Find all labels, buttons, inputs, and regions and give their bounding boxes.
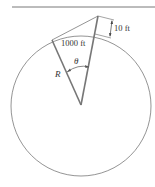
radius-label: R <box>54 69 61 79</box>
height-extension-top <box>98 16 114 20</box>
distance-label: 1000 ft <box>61 38 86 48</box>
angle-arrow-left <box>67 69 71 73</box>
radius-line-tower <box>81 16 98 105</box>
height-extension-bottom <box>95 34 111 38</box>
angle-label: θ <box>74 56 79 66</box>
earth-circle <box>11 36 151 176</box>
earth-curvature-diagram: 1000 ft 10 ft θ R <box>0 0 155 187</box>
arrowhead-up <box>111 20 114 24</box>
height-label: 10 ft <box>114 23 130 33</box>
arrowhead-down <box>109 33 112 37</box>
